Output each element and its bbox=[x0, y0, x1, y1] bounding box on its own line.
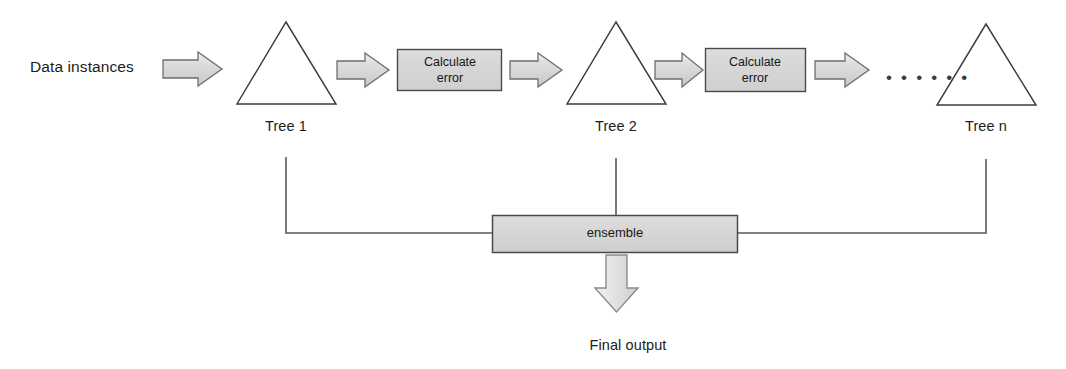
ensemble-flow-diagram bbox=[0, 0, 1066, 369]
input-label: Data instances bbox=[30, 58, 134, 76]
continuation-dots: • • • • • • bbox=[886, 68, 970, 88]
calculate-error-2-text: Calculate error bbox=[700, 54, 810, 86]
arrow-ensemble-to-output bbox=[595, 255, 638, 312]
tree-2-label: Tree 2 bbox=[595, 118, 637, 134]
calculate-error-2-line1: Calculate bbox=[700, 54, 810, 70]
calculate-error-1-line1: Calculate bbox=[395, 54, 505, 70]
final-output-label: Final output bbox=[590, 337, 667, 353]
arrow-tree2-to-error2 bbox=[655, 53, 703, 87]
tree-1-label: Tree 1 bbox=[265, 118, 307, 134]
calculate-error-2-line2: error bbox=[700, 70, 810, 86]
arrow-input-to-tree1 bbox=[163, 52, 222, 86]
connector-tree1-to-ensemble bbox=[286, 157, 493, 233]
diagram-canvas: Data instances Tree 1 Tree 2 Tree n Calc… bbox=[0, 0, 1066, 369]
tree-n-triangle bbox=[937, 24, 1036, 105]
tree-2-triangle bbox=[567, 22, 666, 104]
tree-1-triangle bbox=[237, 22, 336, 104]
tree-n-label: Tree n bbox=[965, 118, 1007, 134]
ensemble-label: ensemble bbox=[515, 225, 715, 241]
calculate-error-1-line2: error bbox=[395, 70, 505, 86]
arrow-error1-to-tree2 bbox=[510, 53, 562, 87]
arrow-error2-to-treen bbox=[815, 53, 869, 87]
connector-treen-to-ensemble bbox=[736, 159, 986, 233]
arrow-tree1-to-error1 bbox=[337, 53, 389, 87]
calculate-error-1-text: Calculate error bbox=[395, 54, 505, 86]
